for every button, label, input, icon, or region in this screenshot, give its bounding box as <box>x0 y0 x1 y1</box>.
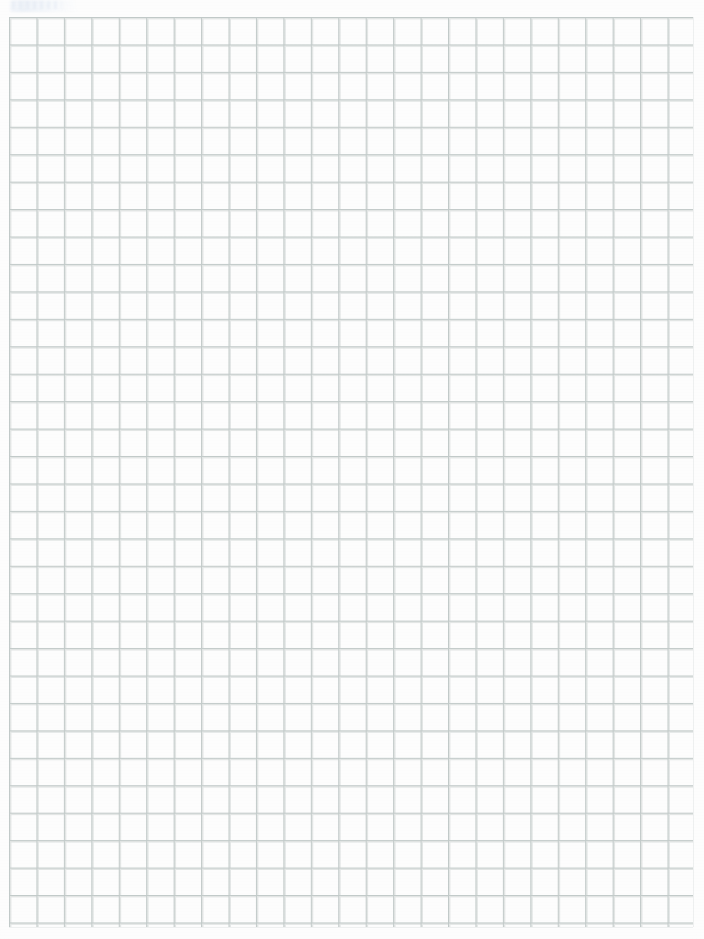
grid-paper-rules <box>9 17 693 927</box>
grid-bleed-right <box>693 17 694 927</box>
grid-bleed-bottom <box>9 927 693 928</box>
scan-smudge-artifact <box>10 0 76 12</box>
scanned-page <box>0 0 704 939</box>
grid-line-layer <box>9 17 693 927</box>
